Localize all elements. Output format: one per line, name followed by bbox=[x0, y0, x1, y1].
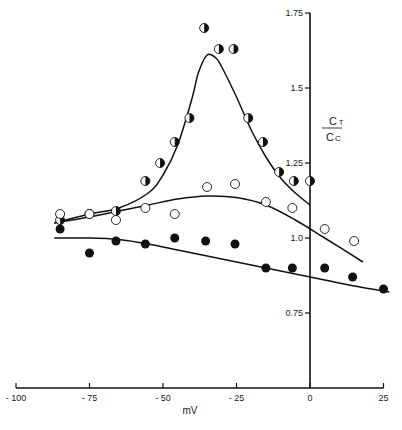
data-point-half-filled bbox=[289, 177, 298, 186]
data-point-half-filled bbox=[156, 159, 165, 168]
data-point-half-filled bbox=[141, 177, 150, 186]
data-point-filled bbox=[288, 264, 297, 273]
y-axis-title: CT CC bbox=[322, 115, 344, 143]
data-point-filled bbox=[201, 237, 210, 246]
fit-curve-open bbox=[54, 196, 363, 262]
data-point-filled bbox=[348, 273, 357, 282]
data-point-open bbox=[261, 198, 270, 207]
data-point-filled bbox=[261, 264, 270, 273]
data-point-half-filled bbox=[306, 177, 315, 186]
data-point-half-filled bbox=[170, 138, 179, 147]
data-point-half-filled bbox=[244, 114, 253, 123]
data-point-half-filled bbox=[214, 45, 223, 54]
data-point-half-filled bbox=[185, 114, 194, 123]
data-point-filled bbox=[85, 249, 94, 258]
y-tick-label: 1.25 bbox=[285, 158, 303, 168]
data-point-filled bbox=[141, 240, 150, 249]
y-tick-label: 1.5 bbox=[290, 83, 303, 93]
data-point-open bbox=[350, 237, 359, 246]
axes: - 100- 75- 50- 250250.751.01.251.51.75 bbox=[6, 8, 389, 403]
data-points bbox=[56, 24, 388, 294]
data-point-open bbox=[111, 216, 120, 225]
data-point-open bbox=[231, 180, 240, 189]
y-axis-numerator: CT bbox=[329, 115, 344, 127]
y-tick-label: 1.75 bbox=[285, 8, 303, 18]
fit-curves bbox=[54, 54, 389, 292]
data-point-open bbox=[56, 210, 65, 219]
data-point-filled bbox=[56, 225, 65, 234]
data-point-filled bbox=[111, 237, 120, 246]
x-axis-title: mV bbox=[183, 405, 198, 416]
x-tick-label: - 50 bbox=[155, 393, 171, 403]
data-point-open bbox=[288, 204, 297, 213]
x-tick-label: 25 bbox=[378, 393, 388, 403]
y-tick-label: 1.0 bbox=[290, 233, 303, 243]
data-point-filled bbox=[320, 264, 329, 273]
y-axis-denominator: CC bbox=[326, 131, 341, 143]
x-tick-label: - 100 bbox=[6, 393, 27, 403]
data-point-filled bbox=[231, 240, 240, 249]
x-tick-label: - 25 bbox=[229, 393, 245, 403]
data-point-open bbox=[320, 225, 329, 234]
data-point-filled bbox=[379, 285, 388, 294]
data-point-half-filled bbox=[275, 168, 284, 177]
data-point-half-filled bbox=[111, 207, 120, 216]
chart: - 100- 75- 50- 250250.751.01.251.51.75 m… bbox=[0, 0, 402, 430]
data-point-half-filled bbox=[200, 24, 209, 33]
y-tick-label: 0.75 bbox=[285, 308, 303, 318]
data-point-open bbox=[85, 210, 94, 219]
data-point-half-filled bbox=[229, 45, 238, 54]
x-tick-label: 0 bbox=[307, 393, 312, 403]
data-point-open bbox=[203, 183, 212, 192]
x-tick-label: - 75 bbox=[82, 393, 98, 403]
data-point-filled bbox=[170, 234, 179, 243]
data-point-open bbox=[141, 204, 150, 213]
data-point-open bbox=[170, 210, 179, 219]
data-point-half-filled bbox=[258, 138, 267, 147]
fit-curve-filled bbox=[54, 238, 389, 292]
